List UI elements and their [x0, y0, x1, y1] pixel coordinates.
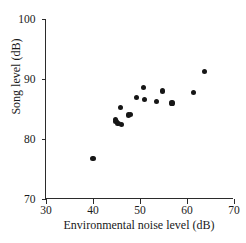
data-point — [142, 97, 147, 102]
data-point — [191, 90, 196, 95]
x-axis-title: Environmental noise level (dB) — [45, 219, 233, 232]
scatter-plot-figure: 708090100 3040506070 Environmental noise… — [0, 0, 246, 243]
data-point — [169, 100, 174, 105]
y-tick-label-70: 70 — [24, 194, 36, 206]
x-tick-label-50: 50 — [134, 205, 146, 217]
y-tick-label-90: 90 — [24, 74, 36, 86]
data-point — [128, 112, 133, 117]
y-axis-title: Song level (dB) — [10, 2, 23, 152]
data-point — [134, 95, 139, 100]
x-tick-label-40: 40 — [87, 205, 99, 217]
plot-area: 708090100 3040506070 — [45, 19, 233, 199]
data-points-layer — [46, 19, 233, 198]
data-point — [202, 69, 207, 74]
data-point — [118, 105, 123, 110]
x-tick-label-60: 60 — [181, 205, 193, 217]
y-tick-label-80: 80 — [24, 134, 36, 146]
x-tick-label-30: 30 — [40, 205, 52, 217]
data-point — [160, 88, 165, 93]
data-point — [90, 156, 95, 161]
data-point — [119, 122, 124, 127]
data-point — [141, 85, 146, 90]
x-tick-label-70: 70 — [228, 205, 240, 217]
data-point — [154, 99, 159, 104]
